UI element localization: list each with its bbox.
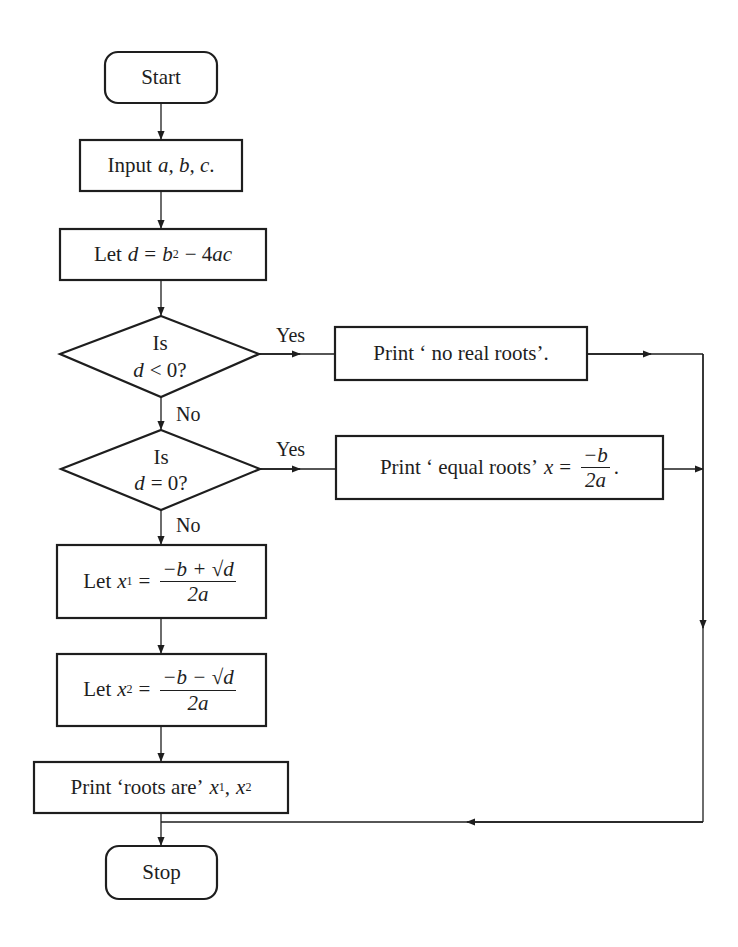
decision-neg-line2: d< 0? bbox=[133, 357, 186, 383]
print-roots-var2: x bbox=[236, 776, 245, 799]
print-roots-sub2: 2 bbox=[245, 781, 251, 794]
discriminant-var: d bbox=[128, 243, 139, 266]
root1-prefix: Let bbox=[83, 570, 111, 593]
print-roots-label: Print ‘roots are’x1,x2 bbox=[34, 762, 288, 813]
decision-neg-rest: < 0? bbox=[150, 358, 187, 382]
root1-fraction: −b + √d2a bbox=[160, 558, 235, 605]
print-equal-denominator: 2a bbox=[585, 468, 606, 491]
print-equal-eq: = bbox=[559, 456, 571, 479]
root2-denominator: 2a bbox=[188, 691, 209, 714]
print-no-real-text: Print ‘ no real roots’. bbox=[373, 342, 549, 365]
root2-fraction: −b − √d2a bbox=[160, 666, 235, 713]
edge-label-neg-no: No bbox=[176, 403, 200, 426]
start-label: Start bbox=[105, 52, 217, 103]
root2-prefix: Let bbox=[83, 678, 111, 701]
stop-text: Stop bbox=[142, 861, 181, 884]
decision-zero-label: Is d= 0? bbox=[61, 430, 261, 510]
input-suffix: . bbox=[209, 154, 214, 177]
decision-zero-line1: Is bbox=[153, 444, 168, 470]
print-equal-prefix: Print ‘ equal roots’ bbox=[380, 456, 538, 479]
root2-eq: = bbox=[139, 678, 151, 701]
root1-label: Letx1=−b + √d2a bbox=[57, 545, 266, 618]
discriminant-ac: ac bbox=[212, 243, 232, 266]
discriminant-prefix: Let bbox=[94, 243, 122, 266]
root2-label: Letx2=−b − √d2a bbox=[57, 654, 266, 726]
input-label: Inputa, b, c. bbox=[80, 140, 242, 191]
input-prefix: Input bbox=[108, 154, 152, 177]
decision-zero-line2: d= 0? bbox=[134, 470, 187, 496]
root2-sub: 2 bbox=[127, 683, 133, 696]
print-equal-numerator: −b bbox=[581, 444, 610, 468]
print-equal-label: Print ‘ equal roots’x=−b2a. bbox=[336, 436, 663, 499]
root1-var: x bbox=[117, 570, 126, 593]
decision-zero-rest: = 0? bbox=[151, 471, 188, 495]
discriminant-rest: − 4 bbox=[185, 243, 213, 266]
discriminant-exp: 2 bbox=[173, 248, 179, 261]
discriminant-eq: = bbox=[144, 243, 156, 266]
decision-neg-line1: Is bbox=[152, 330, 167, 356]
print-roots-var1: x bbox=[210, 776, 219, 799]
root2-var: x bbox=[117, 678, 126, 701]
root2-numerator: −b − √d bbox=[160, 666, 235, 690]
start-text: Start bbox=[141, 66, 181, 89]
stop-label: Stop bbox=[106, 846, 217, 899]
decision-neg-label: Is d< 0? bbox=[60, 316, 260, 397]
edge-label-neg-yes: Yes bbox=[276, 324, 305, 347]
root1-denominator: 2a bbox=[188, 582, 209, 605]
root1-sub: 1 bbox=[127, 575, 133, 588]
root1-numerator: −b + √d bbox=[160, 558, 235, 582]
decision-neg-var: d bbox=[133, 358, 144, 382]
edge-label-zero-no: No bbox=[176, 514, 200, 537]
discriminant-label: Letd=b2− 4ac bbox=[60, 229, 266, 280]
print-no-real-label: Print ‘ no real roots’. bbox=[335, 327, 587, 380]
discriminant-b: b bbox=[162, 243, 173, 266]
print-equal-fraction: −b2a bbox=[581, 444, 610, 491]
print-equal-suffix: . bbox=[614, 456, 619, 479]
decision-zero-var: d bbox=[134, 471, 145, 495]
print-roots-sep: , bbox=[225, 776, 230, 799]
print-roots-prefix: Print ‘roots are’ bbox=[71, 776, 204, 799]
edge-label-zero-yes: Yes bbox=[276, 438, 305, 461]
input-vars: a, b, c bbox=[158, 154, 209, 177]
print-equal-var: x bbox=[544, 456, 553, 479]
root1-eq: = bbox=[139, 570, 151, 593]
